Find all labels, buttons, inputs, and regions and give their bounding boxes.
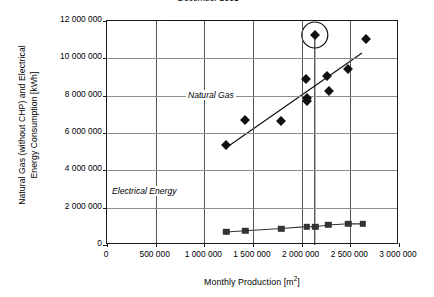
gridline-vertical bbox=[253, 21, 254, 243]
y-axis-tick-label: 4 000 000 bbox=[36, 163, 102, 173]
gridline-horizontal bbox=[107, 58, 397, 59]
gridline-horizontal bbox=[107, 133, 397, 134]
x-axis-title: Monthly Production [m2] bbox=[106, 275, 398, 287]
y-axis-tick-mark bbox=[103, 96, 107, 97]
gridline-vertical bbox=[302, 21, 303, 243]
y-axis-title-line1: Natural Gas (without CHP) and Electrical bbox=[17, 10, 29, 240]
plot-area bbox=[106, 20, 398, 244]
y-axis-tick-label: 2 000 000 bbox=[36, 201, 102, 211]
x-axis-tick-label: 2 500 000 bbox=[331, 249, 368, 259]
x-axis-tick-mark bbox=[253, 243, 254, 247]
y-axis-tick-mark bbox=[103, 170, 107, 171]
y-axis-tick-mark bbox=[103, 21, 107, 22]
y-axis-tick-mark bbox=[103, 245, 107, 246]
electrical-energy-data-point bbox=[359, 221, 365, 227]
gridline-vertical bbox=[204, 21, 205, 243]
electrical-energy-data-point bbox=[325, 222, 331, 228]
electrical-energy-data-point bbox=[278, 225, 284, 231]
x-axis-tick-label: 1 500 000 bbox=[233, 249, 270, 259]
x-axis-tick-mark bbox=[204, 243, 205, 247]
x-axis-title-tail: ] bbox=[297, 277, 300, 287]
x-axis-tick-mark bbox=[107, 243, 108, 247]
y-axis-tick-mark bbox=[103, 133, 107, 134]
gridline-horizontal bbox=[107, 96, 397, 97]
electrical-energy-data-point bbox=[223, 229, 229, 235]
x-axis-tick-label: 1 000 000 bbox=[185, 249, 222, 259]
y-axis-tick-mark bbox=[103, 58, 107, 59]
y-axis-tick-label: 0 bbox=[36, 238, 102, 248]
x-axis-tick-mark bbox=[302, 243, 303, 247]
electrical-energy-data-point bbox=[242, 228, 248, 234]
x-axis-tick-mark bbox=[156, 243, 157, 247]
x-axis-tick-label: 2 000 000 bbox=[282, 249, 319, 259]
x-axis-title-base: Monthly Production [m bbox=[204, 277, 294, 287]
x-axis-tick-label: 500 000 bbox=[140, 249, 170, 259]
electrical-energy-data-point bbox=[312, 224, 318, 230]
gridline-vertical bbox=[156, 21, 157, 243]
gridline-vertical bbox=[350, 21, 351, 243]
electrical-energy-data-point bbox=[345, 221, 351, 227]
y-axis-tick-label: 8 000 000 bbox=[36, 89, 102, 99]
electrical-energy-data-point bbox=[303, 223, 309, 229]
x-axis-tick-label: 3 000 000 bbox=[379, 249, 416, 259]
gridline-horizontal bbox=[107, 208, 397, 209]
x-axis-tick-mark bbox=[350, 243, 351, 247]
x-axis-tick-label: 0 bbox=[104, 249, 109, 259]
x-axis-tick-mark bbox=[399, 243, 400, 247]
annotation-natural-gas: Natural Gas bbox=[186, 90, 236, 100]
gridline-horizontal bbox=[107, 170, 397, 171]
y-axis-tick-label: 6 000 000 bbox=[36, 126, 102, 136]
chart-figure: Natural Gas (without CHP) and Electrical… bbox=[0, 0, 434, 297]
y-axis-tick-label: 10 000 000 bbox=[36, 51, 102, 61]
annotation-december-2001: December 2001 bbox=[176, 0, 241, 3]
x-axis-tick-labels: 0500 0001 000 0001 500 0002 000 0002 500… bbox=[0, 249, 434, 265]
y-axis-tick-mark bbox=[103, 208, 107, 209]
annotation-electrical-energy: Electrical Energy bbox=[110, 186, 178, 196]
y-axis-tick-label: 12 000 000 bbox=[36, 14, 102, 24]
